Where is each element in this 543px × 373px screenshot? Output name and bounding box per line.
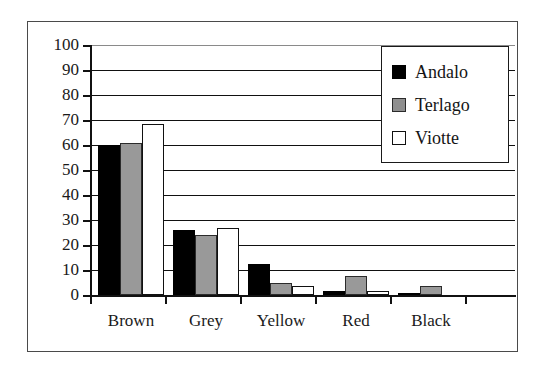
- bar-yellow-viotte: [292, 286, 314, 295]
- y-axis-tick: [83, 170, 90, 172]
- y-axis-tick: [83, 220, 90, 222]
- y-axis-tick: [83, 195, 90, 197]
- y-axis-tick-label: 10: [41, 261, 79, 278]
- x-axis-line: [90, 295, 516, 297]
- x-axis-tick: [90, 295, 92, 304]
- y-axis-tick-label: 80: [41, 86, 79, 103]
- bar-red-terlago: [345, 276, 367, 295]
- chart-legend: AndaloTerlagoViotte: [381, 46, 509, 163]
- x-axis-tick: [315, 295, 317, 304]
- x-axis-tick: [390, 295, 392, 304]
- chart-frame: 1009080706050403020100 BrownGreyYellowRe…: [27, 21, 518, 352]
- bar-black-terlago: [420, 286, 442, 295]
- y-axis-tick-label: 100: [41, 36, 79, 53]
- bar-brown-andalo: [98, 145, 120, 295]
- white-square-icon: [392, 131, 406, 145]
- y-axis-tick-label: 30: [41, 211, 79, 228]
- y-axis-tick-label: 70: [41, 111, 79, 128]
- y-axis-tick: [83, 295, 90, 297]
- black-square-icon: [392, 65, 406, 79]
- y-axis-line: [90, 45, 92, 296]
- y-axis-tick: [83, 120, 90, 122]
- y-axis-tick-labels: 1009080706050403020100: [39, 22, 79, 373]
- y-axis-tick: [83, 145, 90, 147]
- y-axis-tick: [83, 70, 90, 72]
- legend-label: Viotte: [415, 129, 459, 147]
- y-axis-tick: [83, 45, 90, 47]
- y-axis-tick: [83, 95, 90, 97]
- bar-grey-terlago: [195, 235, 217, 295]
- x-axis-category-labels: BrownGreyYellowRedBlack: [90, 311, 516, 341]
- x-axis-tick: [465, 295, 467, 304]
- y-axis-tick-label: 20: [41, 236, 79, 253]
- bar-brown-terlago: [120, 143, 142, 296]
- legend-item-terlago[interactable]: Terlago: [392, 88, 508, 121]
- legend-item-viotte[interactable]: Viotte: [392, 121, 508, 154]
- y-axis-tick-label: 50: [41, 161, 79, 178]
- bar-brown-viotte: [142, 124, 164, 295]
- x-axis-tick: [165, 295, 167, 304]
- bar-grey-andalo: [173, 230, 195, 295]
- y-axis-tick-label: 0: [41, 286, 79, 303]
- legend-label: Andalo: [415, 63, 468, 81]
- legend-item-andalo[interactable]: Andalo: [392, 55, 508, 88]
- y-axis-tick: [83, 245, 90, 247]
- bar-grey-viotte: [217, 228, 239, 296]
- bar-yellow-andalo: [248, 264, 270, 295]
- y-axis-tick-label: 40: [41, 186, 79, 203]
- y-axis-tick-label: 90: [41, 61, 79, 78]
- y-axis-tick: [83, 270, 90, 272]
- grey-square-icon: [392, 98, 406, 112]
- y-axis-tick-label: 60: [41, 136, 79, 153]
- bar-yellow-terlago: [270, 283, 292, 296]
- x-axis-label-black: Black: [386, 311, 476, 331]
- legend-label: Terlago: [415, 96, 470, 114]
- x-axis-tick: [240, 295, 242, 304]
